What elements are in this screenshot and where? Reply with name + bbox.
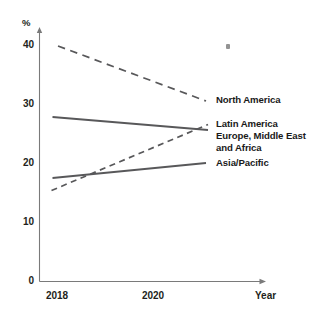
y-tick-label-10: 10 xyxy=(10,216,34,227)
series-label-emea-line1: Europe, Middle East xyxy=(216,130,306,142)
y-axis-unit-label: % xyxy=(22,17,30,28)
series-label-latin-america: Latin America xyxy=(216,118,278,130)
y-tick-label-30: 30 xyxy=(10,98,34,109)
x-tick-label-2018: 2018 xyxy=(40,290,74,301)
series-label-north-america: North America xyxy=(216,94,280,106)
series-line-emea xyxy=(53,117,209,130)
series-label-asia-pacific: Asia/Pacific xyxy=(216,157,269,169)
scan-artifact-smudge xyxy=(226,44,230,49)
chart-plot-area xyxy=(0,0,322,316)
y-tick-label-0: 0 xyxy=(10,275,34,286)
y-tick-label-20: 20 xyxy=(10,157,34,168)
y-axis-arrowhead xyxy=(37,27,42,33)
x-axis-title: Year xyxy=(255,290,276,301)
series-label-emea-line2: and Africa xyxy=(216,142,262,154)
x-axis-arrowhead xyxy=(260,279,267,284)
line-chart: % 40 30 20 10 0 2018 2020 Year North Ame… xyxy=(0,0,322,316)
series-line-asia-pacific xyxy=(53,163,207,178)
y-tick-label-40: 40 xyxy=(10,39,34,50)
x-tick-label-2020: 2020 xyxy=(136,290,170,301)
series-line-north-america xyxy=(58,46,206,101)
series-line-latin-america xyxy=(52,125,209,191)
